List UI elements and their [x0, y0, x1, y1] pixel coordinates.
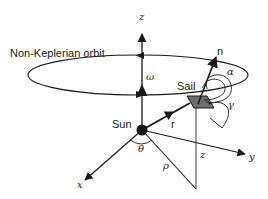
rho-label: ρ	[162, 160, 169, 171]
y-axis-label: y	[248, 151, 255, 162]
rho-line	[142, 130, 196, 189]
alpha-label: α	[227, 66, 234, 77]
gamma-label: γ	[228, 99, 234, 110]
x-axis	[85, 130, 142, 180]
non-keplerian-orbit-diagram: Non-Keplerian orbit Sun Sail z x y n r ω…	[0, 0, 268, 199]
r-vector	[142, 103, 190, 130]
height-z-label: z	[199, 149, 206, 160]
omega-arrow	[137, 84, 148, 96]
r-vector-label: r	[171, 118, 175, 130]
omega-label: ω	[146, 71, 154, 82]
normal-vector-label: n	[217, 45, 223, 57]
sun-label: Sun	[112, 118, 132, 130]
theta-label: θ	[138, 143, 144, 154]
orbit-direction-arrow-top	[136, 52, 144, 59]
x-axis-label: x	[77, 179, 83, 190]
z-axis-label: z	[138, 11, 145, 22]
y-axis	[142, 130, 245, 154]
sail-label: Sail	[177, 80, 195, 92]
sun-marker	[137, 125, 148, 136]
orbit-label: Non-Keplerian orbit	[10, 47, 105, 59]
